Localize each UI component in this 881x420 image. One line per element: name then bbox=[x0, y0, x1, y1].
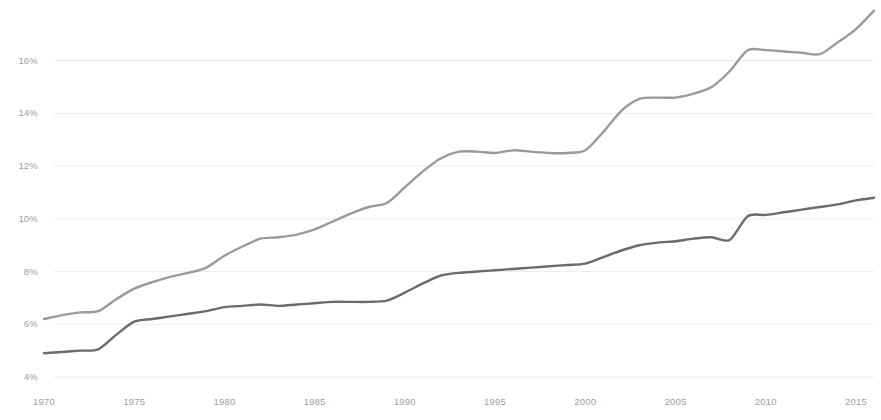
x-tick-label: 2010 bbox=[741, 396, 791, 407]
x-tick-label: 1990 bbox=[380, 396, 430, 407]
chart-plot-area bbox=[0, 0, 881, 420]
y-tick-label: 8% bbox=[0, 266, 38, 277]
y-tick-label: 16% bbox=[0, 55, 38, 66]
x-tick-label: 2005 bbox=[651, 396, 701, 407]
y-tick-label: 12% bbox=[0, 160, 38, 171]
x-tick-label: 1995 bbox=[470, 396, 520, 407]
x-tick-label: 1975 bbox=[109, 396, 159, 407]
x-tick-label: 1980 bbox=[199, 396, 249, 407]
series-group bbox=[44, 11, 874, 354]
y-tick-label: 10% bbox=[0, 213, 38, 224]
y-tick-label: 6% bbox=[0, 318, 38, 329]
x-tick-label: 2015 bbox=[831, 396, 881, 407]
series-line-lower-line bbox=[44, 198, 874, 354]
line-chart: 16%14%12%10%8%6%4% 197019751980198519901… bbox=[0, 0, 881, 420]
y-tick-label: 14% bbox=[0, 107, 38, 118]
gridlines-group bbox=[54, 61, 874, 377]
x-tick-label: 2000 bbox=[560, 396, 610, 407]
x-tick-label: 1985 bbox=[290, 396, 340, 407]
y-tick-label: 4% bbox=[0, 371, 38, 382]
x-tick-label: 1970 bbox=[19, 396, 69, 407]
